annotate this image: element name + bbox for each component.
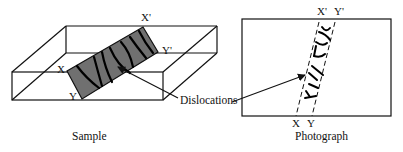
sample-label-x: X [57,63,65,75]
sample-caption: Sample [72,130,107,143]
photograph-frame [242,19,391,116]
sample-label-x-prime: X' [141,11,151,23]
dislocations-label: Dislocations [180,94,238,106]
photo-label-y: Y [307,117,315,129]
sample-label-y-prime: Y' [162,44,172,56]
photograph-caption: Photograph [295,130,348,143]
diagram-canvas: X Y X' Y' Dislocations X' Y' X Y Sampl [0,0,403,152]
sample-slab [67,27,158,99]
sample-label-y: Y [69,90,77,102]
photo-label-y-prime: Y' [334,5,344,17]
photo-label-x: X [292,117,300,129]
photo-label-x-prime: X' [317,5,327,17]
